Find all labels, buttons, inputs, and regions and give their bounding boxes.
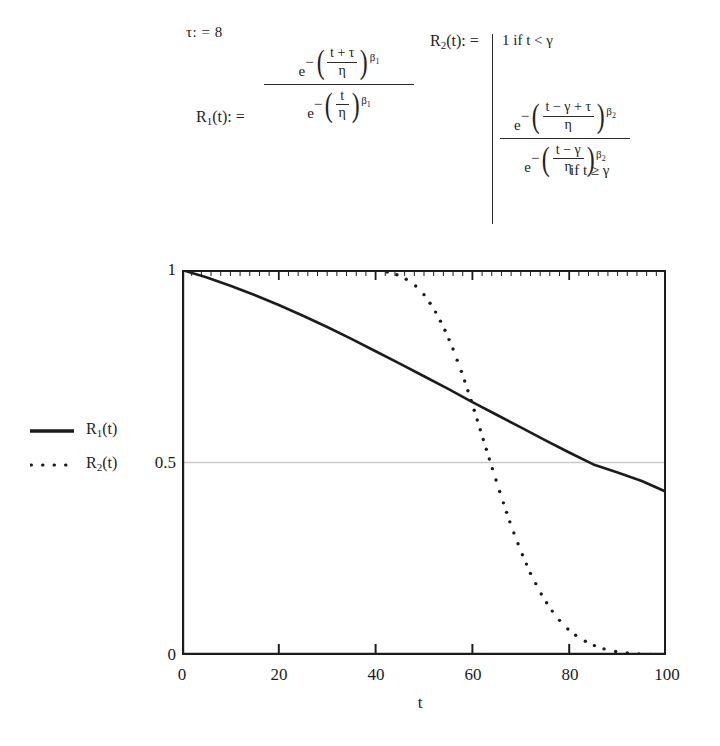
x-axis-title: t bbox=[398, 693, 442, 713]
r1-den-denominator: η bbox=[336, 106, 349, 121]
r1-num-denominator: η bbox=[327, 64, 357, 79]
r1-num-exponent-sub: 1 bbox=[375, 57, 379, 66]
series-point-r2 bbox=[602, 647, 605, 650]
formula-block: τ: = 8 R1(t): = e−(t + τη)β1 e−(tη)β1 R2… bbox=[0, 0, 720, 250]
legend-item-r2: R2(t) bbox=[30, 446, 180, 480]
legend-item-r1: R1(t) bbox=[30, 412, 180, 446]
series-point-r2 bbox=[428, 302, 431, 305]
series-line-r1 bbox=[182, 270, 666, 492]
r1-denominator: e−(tη)β1 bbox=[307, 89, 371, 123]
legend-swatch-solid bbox=[30, 423, 74, 435]
r1-assign: (t): = bbox=[212, 108, 245, 125]
series-point-r2 bbox=[545, 601, 548, 604]
series-point-r2 bbox=[485, 447, 488, 450]
r1-den-exponent-sub: 1 bbox=[367, 99, 371, 108]
series-point-r2 bbox=[521, 553, 524, 556]
series-point-r2 bbox=[466, 389, 469, 392]
r1-num-numerator: t + τ bbox=[327, 46, 357, 61]
tau-assignment: τ: = 8 bbox=[186, 24, 223, 41]
series-point-r2 bbox=[451, 347, 454, 350]
series-point-r2 bbox=[479, 428, 482, 431]
x-tick-label-20: 20 bbox=[254, 665, 304, 685]
left-paren-icon: ( bbox=[532, 101, 540, 131]
r2-num-minus: − bbox=[521, 108, 530, 125]
series-point-r2 bbox=[494, 478, 497, 481]
r2-fraction: e−(t − γ + τη)β2 e−(t − γη)β2 bbox=[500, 100, 630, 176]
y-tick-label-0: 0 bbox=[136, 645, 176, 665]
r1-fraction: e−(t + τη)β1 e−(tη)β1 bbox=[264, 46, 414, 122]
legend-r2-tail: (t) bbox=[102, 454, 117, 471]
r2-case-brace bbox=[492, 34, 493, 224]
right-paren-icon: ) bbox=[360, 47, 368, 77]
r1-num-minus: − bbox=[305, 54, 314, 71]
plot-svg bbox=[182, 270, 666, 655]
right-paren-icon: ) bbox=[352, 90, 360, 120]
series-point-r2 bbox=[502, 501, 505, 504]
left-paren-icon: ( bbox=[325, 90, 333, 120]
r2-den-numerator: t − γ bbox=[553, 143, 584, 158]
x-tick-label-80: 80 bbox=[545, 665, 595, 685]
r1-den-numerator: t bbox=[336, 89, 349, 104]
series-point-r2 bbox=[422, 293, 425, 296]
x-tick-label-100: 100 bbox=[642, 665, 692, 685]
r2-num-denominator: η bbox=[543, 118, 595, 133]
series-point-r2 bbox=[525, 562, 528, 565]
r1-numerator: e−(t + τη)β1 bbox=[299, 46, 380, 80]
r2-num-paren-group: (t − γ + τη) bbox=[530, 100, 606, 132]
legend-label-r2: R2(t) bbox=[86, 454, 117, 473]
y-tick-label-1: 1 bbox=[136, 260, 176, 280]
series-point-r2 bbox=[614, 650, 617, 653]
series-point-r2 bbox=[540, 592, 543, 595]
series-point-r2 bbox=[463, 379, 466, 382]
left-paren-icon: ( bbox=[542, 144, 550, 174]
series-point-r2 bbox=[508, 520, 511, 523]
series-point-r2 bbox=[482, 438, 485, 441]
series-point-r2 bbox=[443, 329, 446, 332]
r2-den-e: e bbox=[524, 159, 531, 176]
series-point-r2 bbox=[566, 627, 569, 630]
solid-line-icon bbox=[30, 425, 74, 437]
x-tick-label-0: 0 bbox=[157, 665, 207, 685]
left-paren-icon: ( bbox=[316, 47, 324, 77]
r1-num-e: e bbox=[299, 63, 306, 80]
r2-assign: (t): = bbox=[446, 32, 479, 49]
series-point-r2 bbox=[512, 531, 515, 534]
dotted-line-icon bbox=[30, 459, 74, 471]
series-point-r2 bbox=[551, 609, 554, 612]
series-point-r2 bbox=[516, 542, 519, 545]
series-point-r2 bbox=[529, 572, 532, 575]
right-paren-icon: ) bbox=[597, 101, 605, 131]
series-point-r2 bbox=[534, 582, 537, 585]
series-point-r2 bbox=[558, 619, 561, 622]
series-point-r2 bbox=[505, 511, 508, 514]
r1-den-minus: − bbox=[314, 96, 323, 113]
series-point-r2 bbox=[584, 640, 587, 643]
r1-label: R bbox=[196, 108, 207, 125]
series-point-r2 bbox=[469, 399, 472, 402]
r1-num-paren-group: (t + τη) bbox=[315, 46, 370, 78]
legend-label-r1: R1(t) bbox=[86, 420, 117, 439]
series-point-r2 bbox=[473, 409, 476, 412]
x-tick-label-60: 60 bbox=[448, 665, 498, 685]
series-point-r2 bbox=[414, 284, 417, 287]
series-point-r2 bbox=[574, 634, 577, 637]
r2-numerator: e−(t − γ + τη)β2 bbox=[514, 100, 616, 134]
r2-case-two-condition: if t ≥ γ bbox=[570, 162, 609, 179]
series-point-r2 bbox=[476, 418, 479, 421]
r2-num-e: e bbox=[514, 117, 521, 134]
legend-swatch-dotted bbox=[30, 457, 74, 469]
r2-case-one: 1 if t < γ bbox=[502, 32, 553, 49]
r2-den-minus: − bbox=[531, 150, 540, 167]
r2-main-fraction-bar bbox=[500, 138, 630, 139]
r2-num-exponent-sub: 2 bbox=[612, 111, 616, 120]
series-point-r2 bbox=[455, 358, 458, 361]
chart-area: 1 0.5 0 0 20 40 60 80 100 t R1(t) R2(t) bbox=[0, 250, 720, 746]
r2-definition-label: R2(t): = bbox=[430, 32, 479, 51]
r2-label: R bbox=[430, 32, 441, 49]
r1-den-inner-fraction: tη bbox=[335, 89, 350, 121]
series-point-r2 bbox=[405, 277, 408, 280]
series-point-r2 bbox=[488, 457, 491, 460]
legend-r1-tail: (t) bbox=[102, 420, 117, 437]
series-point-r2 bbox=[498, 490, 501, 493]
r1-den-paren-group: (tη) bbox=[323, 89, 361, 121]
